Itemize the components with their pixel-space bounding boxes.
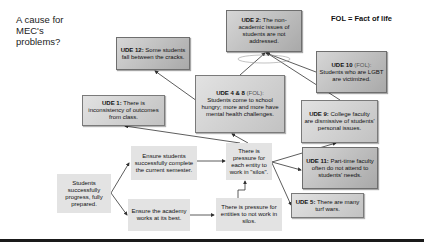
ude-5-box: UDE 5: There are many turf wars. [291, 193, 364, 218]
silo-pressure-box: There is pressure for each entity to wor… [226, 143, 272, 180]
ude-11-box: UDE 11: Part-time faculty often do not a… [302, 147, 378, 189]
not-silo-pressure-box: There is pressure for entities to not wo… [216, 198, 282, 231]
ude-4-8-box: UDE 4 & 8 (FOL):Students come to school … [195, 75, 285, 133]
ensure-academy-box: Ensure the academy works at its best. [128, 199, 190, 231]
bottom-rule [0, 239, 424, 242]
ude-10-box: UDE 10 (FOL):Students who are LGBT are v… [316, 51, 387, 93]
ensure-semester-box: Ensure students successfully complete th… [131, 146, 197, 180]
ude-12-box: UDE 12: Some students fall between the c… [116, 37, 190, 70]
ude-1-box: UDE 1: There is inconsistency of outcome… [82, 95, 165, 126]
ude-2-box: UDE 2: The non-academic issues of studen… [226, 10, 302, 52]
goal-box: Students successfully progress, fully pr… [57, 174, 111, 213]
ude-9-box: UDE 9: College faculty are dismissive of… [301, 100, 378, 143]
